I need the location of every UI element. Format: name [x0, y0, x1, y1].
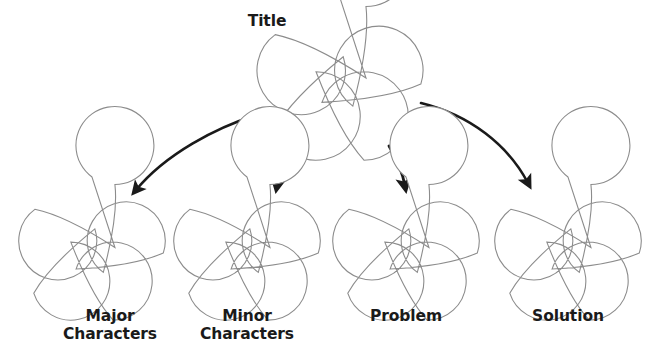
node-major-characters[interactable]	[19, 106, 165, 320]
node-label-title: Title	[232, 13, 302, 31]
node-label-minor-characters: Minor Characters	[177, 308, 317, 343]
major-characters-flower-outline	[19, 106, 165, 320]
node-label-major-characters: Major Characters	[40, 308, 180, 343]
solution-flower-outline	[495, 106, 641, 320]
node-label-solution: Solution	[508, 308, 628, 326]
node-solution[interactable]	[495, 106, 641, 320]
minor-characters-flower-outline	[174, 106, 320, 320]
node-minor-characters[interactable]	[174, 106, 320, 320]
diagram-canvas	[0, 0, 653, 358]
node-label-problem: Problem	[356, 308, 456, 326]
story-map-diagram: Title Major Characters Minor Characters …	[0, 0, 653, 358]
